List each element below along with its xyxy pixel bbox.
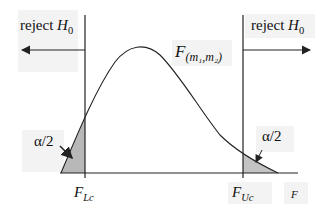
curve-label-main: F [175,42,185,61]
hypothesis-subscript: 0 [299,25,304,36]
f-density-curve [61,47,278,173]
curve-label-sub: (m₁,m₂) [185,50,222,64]
alpha-left-label: α/2 [34,133,54,150]
upper-critical-label: FUc [232,184,253,203]
alpha-right-label: α/2 [262,128,282,145]
hypothesis-symbol: H [288,17,299,33]
axis-label: F [291,188,298,200]
lower-critical-label: FLc [74,184,94,203]
curve-label: F(m₁,m₂) [175,42,222,65]
reject-text: reject [251,17,284,33]
hypothesis-subscript: 0 [68,25,73,36]
f-distribution-diagram: reject H0 reject H0 F(m₁,m₂) α/2 α/2 FLc… [0,0,324,206]
lower-critical-sub: Lc [83,192,94,203]
lower-critical-main: F [74,184,83,200]
reject-right-label: reject H0 [251,17,304,36]
upper-critical-sub: Uc [241,192,253,203]
upper-critical-main: F [232,184,241,200]
reject-text: reject [20,17,53,33]
alpha-right-pointer [256,150,262,162]
reject-left-label: reject H0 [20,17,73,36]
hypothesis-symbol: H [57,17,68,33]
